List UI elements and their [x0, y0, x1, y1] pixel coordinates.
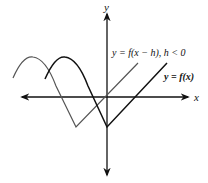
graph-diagram: x y y = f(x − h), h < 0 y = f(x): [0, 0, 208, 183]
original-curve: [45, 57, 167, 127]
y-axis-label: y: [103, 1, 109, 13]
shifted-curve: [13, 57, 138, 127]
original-curve-label: y = f(x): [163, 71, 194, 83]
x-axis-label: x: [193, 91, 199, 103]
shifted-curve-label: y = f(x − h), h < 0: [111, 47, 186, 59]
